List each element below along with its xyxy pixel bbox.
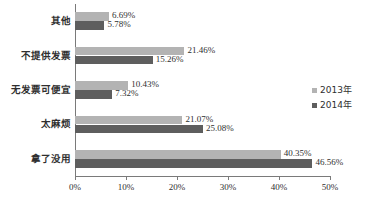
x-tick-label-2: 20% bbox=[157, 182, 197, 192]
y-axis-label-3: 太麻烦 bbox=[0, 118, 71, 129]
bar-2-series-1 bbox=[75, 90, 112, 99]
x-tick-mark-5 bbox=[330, 176, 331, 180]
chart-legend: 2013年 2014年 bbox=[312, 84, 376, 114]
bar-3-series-1 bbox=[75, 125, 203, 134]
bar-value-label-4-series-1: 46.56% bbox=[315, 158, 343, 167]
square-marker-icon bbox=[312, 103, 317, 108]
bar-4-series-0 bbox=[75, 150, 281, 159]
bar-3-series-0 bbox=[75, 116, 182, 125]
y-axis-label-2: 无发票可便宜 bbox=[0, 84, 71, 95]
legend-label-2013: 2013年 bbox=[320, 85, 352, 95]
x-tick-mark-4 bbox=[279, 176, 280, 180]
x-tick-label-5: 50% bbox=[310, 182, 350, 192]
bar-chart: 其他 不提供发票 无发票可便宜 太麻烦 拿了没用 6.69%21.46%10.4… bbox=[0, 0, 380, 212]
bar-value-label-1-series-1: 15.26% bbox=[156, 55, 184, 64]
x-tick-mark-2 bbox=[177, 176, 178, 180]
y-axis-label-0: 其他 bbox=[0, 15, 71, 26]
bar-4-series-1 bbox=[75, 159, 312, 168]
x-tick-label-1: 10% bbox=[106, 182, 146, 192]
y-axis-label-1: 不提供发票 bbox=[0, 50, 71, 61]
legend-label-2014: 2014年 bbox=[320, 100, 352, 110]
legend-item-2013[interactable]: 2013年 bbox=[312, 84, 376, 96]
plot-area: 6.69%21.46%10.43%21.07%40.35%5.78%15.26%… bbox=[75, 4, 330, 176]
x-tick-mark-3 bbox=[228, 176, 229, 180]
x-tick-label-3: 30% bbox=[208, 182, 248, 192]
square-marker-icon bbox=[312, 88, 317, 93]
y-axis-label-4: 拿了没用 bbox=[0, 153, 71, 164]
legend-item-2014[interactable]: 2014年 bbox=[312, 99, 376, 111]
x-tick-mark-0 bbox=[75, 176, 76, 180]
x-tick-mark-1 bbox=[126, 176, 127, 180]
bar-0-series-0 bbox=[75, 12, 109, 21]
x-tick-label-4: 40% bbox=[259, 182, 299, 192]
x-tick-label-0: 0% bbox=[55, 182, 95, 192]
bar-value-label-1-series-0: 21.46% bbox=[187, 46, 215, 55]
bar-value-label-4-series-0: 40.35% bbox=[284, 149, 312, 158]
bar-value-label-3-series-1: 25.08% bbox=[206, 124, 234, 133]
bar-0-series-1 bbox=[75, 21, 104, 30]
x-axis-line bbox=[75, 176, 331, 177]
bar-1-series-1 bbox=[75, 56, 153, 65]
bar-value-label-2-series-1: 7.32% bbox=[115, 89, 138, 98]
y-axis-category-labels: 其他 不提供发票 无发票可便宜 太麻烦 拿了没用 bbox=[0, 4, 71, 176]
bar-value-label-0-series-1: 5.78% bbox=[107, 20, 130, 29]
